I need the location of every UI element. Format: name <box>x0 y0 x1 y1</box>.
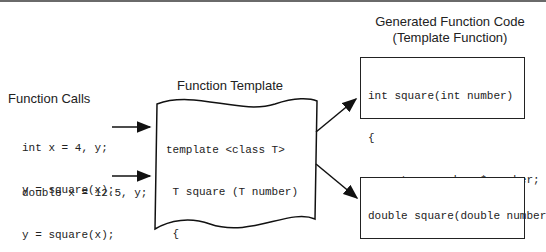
code-line: double square(double number) <box>368 209 546 223</box>
code-line: T square (T number) <box>166 185 344 199</box>
code-line: int square(int number) <box>368 89 540 103</box>
template-code: template <class T> T square (T number) {… <box>166 115 344 252</box>
code-line: { <box>368 131 540 145</box>
code-line: template <class T> <box>166 143 344 157</box>
generated-double-function-box: double square(double number) { return nu… <box>360 177 525 239</box>
generated-int-function-box: int square(int number) { return number *… <box>360 57 525 119</box>
code-line: { <box>166 227 344 241</box>
